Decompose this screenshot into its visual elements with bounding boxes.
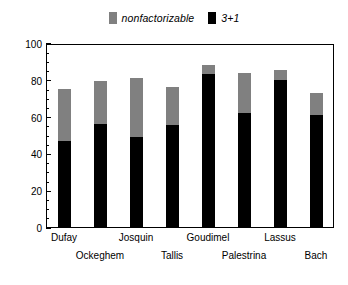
y-tick-label-0: 0 <box>2 223 42 234</box>
y-tick-label-40: 40 <box>2 149 42 160</box>
y-minor-tick <box>46 126 49 127</box>
x-tick-label-bach: Bach <box>305 250 328 261</box>
x-tick-label-tallis: Tallis <box>161 250 183 261</box>
y-tick-mark-80 <box>46 80 51 81</box>
bar-segment-3plus1 <box>238 113 251 228</box>
y-minor-tick <box>46 172 49 173</box>
bar-segment-nonfactorizable <box>274 70 287 80</box>
legend-swatch-gray-icon <box>109 12 117 24</box>
bar-segment-3plus1 <box>310 115 323 228</box>
bar-tallis <box>166 87 179 228</box>
x-tick-label-lassus: Lassus <box>264 232 296 243</box>
y-minor-tick <box>46 218 49 219</box>
y-minor-tick <box>46 200 49 201</box>
legend-swatch-black-icon <box>208 12 216 24</box>
x-tick-label-palestrina: Palestrina <box>222 250 266 261</box>
bar-segment-nonfactorizable <box>310 93 323 115</box>
y-minor-tick <box>46 71 49 72</box>
y-tick-mark-0 <box>46 227 51 228</box>
bar-josquin <box>130 78 143 228</box>
y-minor-tick <box>46 163 49 164</box>
x-tick-label-dufay: Dufay <box>51 232 77 243</box>
bar-segment-nonfactorizable <box>58 89 71 141</box>
bar-palestrina <box>238 73 251 228</box>
y-tick-label-20: 20 <box>2 186 42 197</box>
y-minor-tick <box>46 108 49 109</box>
bar-bach <box>310 93 323 228</box>
y-tick-mark-40 <box>46 154 51 155</box>
bar-segment-nonfactorizable <box>166 87 179 125</box>
y-axis-tick-labels: 020406080100 <box>0 0 42 285</box>
y-minor-tick <box>46 209 49 210</box>
bars-layer <box>46 44 334 228</box>
legend-item-nonfactorizable: nonfactorizable <box>109 12 195 24</box>
y-minor-tick <box>46 182 49 183</box>
legend-label-3plus1: 3+1 <box>221 12 239 24</box>
bar-lassus <box>274 70 287 228</box>
bar-segment-nonfactorizable <box>238 73 251 113</box>
x-tick-label-goudimel: Goudimel <box>187 232 230 243</box>
y-minor-tick <box>46 53 49 54</box>
y-minor-tick <box>46 62 49 63</box>
y-tick-label-80: 80 <box>2 75 42 86</box>
y-tick-label-60: 60 <box>2 112 42 123</box>
y-minor-tick <box>46 90 49 91</box>
x-tick-label-josquin: Josquin <box>119 232 153 243</box>
y-tick-mark-100 <box>46 43 51 44</box>
x-tick-label-ockeghem: Ockeghem <box>76 250 124 261</box>
bar-segment-3plus1 <box>130 137 143 228</box>
bar-segment-3plus1 <box>274 80 287 228</box>
bar-segment-3plus1 <box>166 125 179 228</box>
bar-dufay <box>58 89 71 228</box>
y-minor-tick <box>46 145 49 146</box>
y-tick-mark-20 <box>46 191 51 192</box>
y-tick-mark-60 <box>46 117 51 118</box>
bar-segment-3plus1 <box>58 141 71 228</box>
bar-segment-3plus1 <box>202 74 215 228</box>
stacked-bar-chart: nonfactorizable 3+1 Percent of total 020… <box>0 0 348 285</box>
bar-segment-3plus1 <box>94 124 107 228</box>
chart-legend: nonfactorizable 3+1 <box>0 12 348 24</box>
bar-segment-nonfactorizable <box>130 78 143 137</box>
legend-item-3plus1: 3+1 <box>208 12 239 24</box>
bar-ockeghem <box>94 81 107 228</box>
bar-segment-nonfactorizable <box>94 81 107 124</box>
bar-goudimel <box>202 65 215 228</box>
y-tick-label-100: 100 <box>2 39 42 50</box>
y-minor-tick <box>46 136 49 137</box>
bar-segment-nonfactorizable <box>202 65 215 74</box>
y-minor-tick <box>46 99 49 100</box>
legend-label-nonfactorizable: nonfactorizable <box>122 12 195 24</box>
